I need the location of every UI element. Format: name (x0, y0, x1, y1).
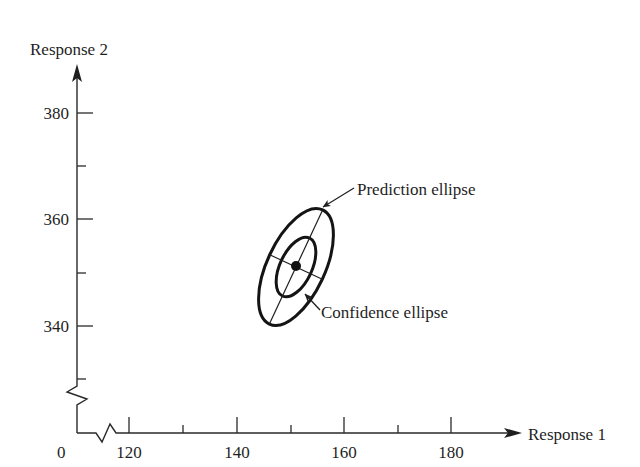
y-axis-title: Response 2 (30, 40, 108, 59)
x-axis (77, 417, 522, 442)
confidence-ellipse-label: Confidence ellipse (321, 303, 448, 322)
center-point (291, 261, 301, 271)
x-tick-label-160: 160 (331, 443, 357, 462)
x-tick-label-180: 180 (438, 443, 464, 462)
y-tick-label-340: 340 (44, 317, 70, 336)
prediction-ellipse-label: Prediction ellipse (357, 180, 476, 199)
y-tick-label-360: 360 (44, 210, 70, 229)
origin-label: 0 (57, 443, 66, 462)
y-tick-label-380: 380 (44, 104, 70, 123)
prediction-arrow-icon (323, 188, 354, 207)
x-axis-title: Response 1 (528, 425, 606, 444)
ellipse-chart: Response 2 Response 1 0 380 360 340 120 … (0, 0, 640, 467)
x-tick-label-140: 140 (224, 443, 250, 462)
y-axis (67, 64, 93, 433)
x-tick-label-120: 120 (116, 443, 142, 462)
